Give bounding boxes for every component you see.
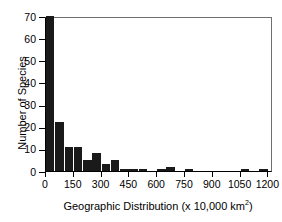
bar: [120, 169, 128, 171]
y-tick-label: 50: [0, 56, 36, 67]
y-tick-label: 10: [0, 144, 36, 155]
histogram-figure: Number of Species 010203040506070 015030…: [0, 0, 282, 222]
y-tick-label: 40: [0, 78, 36, 89]
x-tick: [156, 172, 157, 177]
x-tick: [128, 172, 129, 177]
bar: [241, 169, 249, 171]
y-tick-label: 0: [0, 167, 36, 178]
y-tick-label: 70: [0, 12, 36, 23]
bar: [111, 160, 119, 171]
x-axis-title-text: Geographic Distribution (x 10,000 km: [63, 200, 245, 212]
x-tick: [73, 172, 74, 177]
x-tick: [212, 172, 213, 177]
x-tick: [240, 172, 241, 177]
bar-series: [46, 18, 271, 171]
plot-area: [45, 17, 272, 172]
bar: [55, 122, 63, 171]
bar: [74, 147, 82, 171]
y-tick-label: 20: [0, 122, 36, 133]
x-axis-title-suffix: ): [249, 200, 253, 212]
bar: [139, 169, 147, 171]
x-tick: [184, 172, 185, 177]
bar: [185, 169, 193, 171]
bar: [157, 169, 165, 171]
x-tick: [267, 172, 268, 177]
x-tick: [101, 172, 102, 177]
x-tick-label: 1200: [247, 179, 282, 190]
bar: [259, 169, 267, 171]
bar: [166, 167, 174, 171]
x-tick: [45, 172, 46, 177]
bar: [46, 16, 54, 171]
bar: [102, 164, 110, 171]
y-tick-label: 30: [0, 100, 36, 111]
bar: [129, 169, 137, 171]
x-axis-title: Geographic Distribution (x 10,000 km2): [40, 200, 276, 212]
bar: [83, 160, 91, 171]
bar: [92, 153, 100, 171]
y-tick-label: 60: [0, 34, 36, 45]
bar: [65, 147, 73, 171]
